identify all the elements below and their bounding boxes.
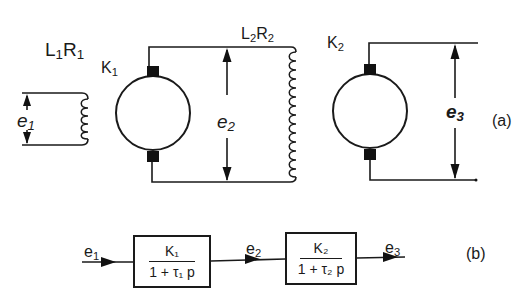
label-K1: K1: [101, 60, 118, 78]
label-e2: e2: [217, 112, 235, 134]
part-b-label: (b): [466, 246, 486, 262]
transfer-block-2: K₂ 1 + τ₂ p: [285, 232, 357, 285]
transfer-block-1: K₁ 1 + τ₁ p: [133, 235, 211, 288]
label-K2: K2: [327, 35, 344, 53]
field-winding-2: [289, 47, 296, 182]
label-L1R1: L1R1: [45, 40, 84, 62]
label-e1: e1: [17, 111, 35, 133]
generator-1: [116, 47, 291, 182]
block-2-numerator: K₂: [287, 240, 355, 256]
label-e3: e3: [446, 102, 464, 124]
fraction-bar: [149, 261, 195, 262]
part-a-label: (a): [492, 113, 512, 129]
coil-1-icon: [81, 99, 88, 139]
fraction-bar: [300, 258, 342, 259]
coil-2-icon: [289, 52, 296, 177]
block-1-denominator: 1 + τ₁ p: [135, 264, 209, 280]
label-block-e1: e1: [84, 244, 99, 262]
block-1-numerator: K₁: [135, 243, 209, 259]
label-L2R2: L2R2: [241, 26, 274, 44]
block-2-denominator: 1 + τ₂ p: [287, 261, 355, 277]
label-block-e2: e2: [246, 241, 261, 259]
label-block-e3: e3: [385, 240, 400, 258]
